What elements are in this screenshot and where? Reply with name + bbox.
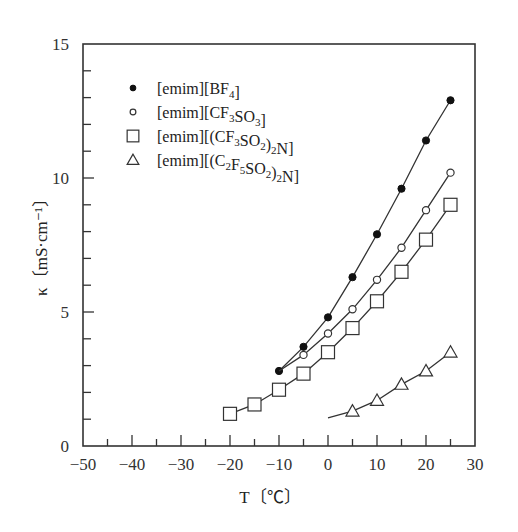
series-line (279, 173, 451, 371)
tick-labels: −50−40−30−20−100102030051015 (52, 35, 484, 474)
filled-circle-marker (422, 137, 429, 144)
x-tick-label: −20 (217, 455, 244, 474)
x-axis-label: T〔℃〕 (239, 488, 300, 507)
y-tick-label: 5 (61, 303, 70, 322)
open-circle-marker (130, 109, 136, 115)
x-tick-label: −40 (119, 455, 146, 474)
open-square-marker (297, 367, 310, 380)
filled-circle-marker (324, 314, 331, 321)
legend-entry-label: [emim][BF4] (157, 80, 240, 101)
open-square-marker (371, 295, 384, 308)
y-tick-label: 0 (61, 437, 70, 456)
open-circle-marker (422, 207, 429, 214)
x-tick-label: 20 (418, 455, 435, 474)
open-square-marker (420, 233, 433, 246)
open-circle-marker (349, 306, 356, 313)
x-tick-label: 0 (324, 455, 333, 474)
open-triangle-marker (371, 394, 384, 405)
series-line (328, 352, 451, 418)
y-axis-label: κ〔mS·cm⁻¹〕 (32, 190, 51, 296)
conductivity-chart: −50−40−30−20−100102030051015 [emim][BF4]… (0, 0, 518, 532)
open-square-marker (346, 322, 359, 335)
filled-circle-marker (349, 274, 356, 281)
open-circle-marker (324, 330, 331, 337)
open-circle-marker (447, 169, 454, 176)
y-tick-label: 10 (52, 169, 69, 188)
x-tick-label: −30 (168, 455, 195, 474)
filled-circle-marker (300, 343, 307, 350)
open-square-marker (273, 383, 286, 396)
open-square-marker (127, 130, 139, 142)
x-tick-label: 30 (467, 455, 484, 474)
x-tick-label: −10 (266, 455, 293, 474)
open-square-marker (395, 265, 408, 278)
open-circle-marker (300, 351, 307, 358)
open-triangle-marker (444, 346, 457, 357)
filled-circle-marker (447, 97, 454, 104)
y-tick-label: 15 (52, 35, 69, 54)
legend: [emim][BF4][emim][CF3SO3][emim][(CF3SO2)… (127, 80, 299, 185)
series-line (230, 205, 451, 414)
series-open-triangle (328, 346, 457, 418)
open-triangle-marker (395, 378, 408, 389)
open-circle-marker (373, 276, 380, 283)
series-open-circle (279, 169, 454, 371)
filled-circle-marker (130, 85, 136, 91)
open-square-marker (248, 398, 261, 411)
x-tick-label: 10 (369, 455, 386, 474)
open-square-marker (322, 346, 335, 359)
x-tick-label: −50 (70, 455, 97, 474)
filled-circle-marker (398, 185, 405, 192)
open-circle-marker (398, 244, 405, 251)
open-triangle-marker (346, 405, 359, 416)
legend-entry-label: [emim][CF3SO3] (157, 104, 266, 129)
open-triangle-marker (420, 364, 433, 375)
open-square-marker (224, 407, 237, 420)
filled-circle-marker (373, 231, 380, 238)
open-triangle-marker (127, 154, 139, 164)
series-open-square (224, 198, 458, 420)
open-square-marker (444, 198, 457, 211)
